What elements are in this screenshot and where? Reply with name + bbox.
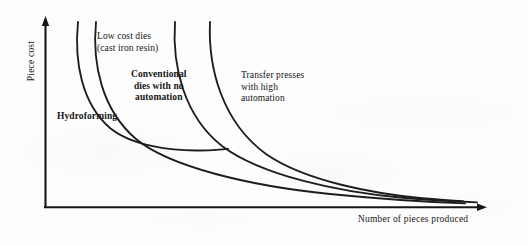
chart-plot-area — [0, 0, 528, 245]
x-axis — [44, 204, 487, 211]
x-axis-label: Number of pieces produced — [358, 214, 468, 224]
y-axis — [42, 16, 49, 208]
curve-transfer-presses — [210, 22, 463, 201]
annotation-transfer-presses: Transfer presses with high automation — [241, 70, 304, 105]
annotation-transfer-presses-line-2: with high — [241, 82, 304, 94]
annotation-low-cost-dies-line-1: Low cost dies — [97, 31, 158, 43]
y-axis-label: Piece cost — [26, 21, 36, 101]
annotation-low-cost-dies-line-2: (cast iron resin) — [97, 43, 158, 55]
annotation-low-cost-dies: Low cost dies (cast iron resin) — [97, 31, 158, 54]
annotation-conventional-dies-line-1: Conventional — [131, 69, 187, 81]
piece-cost-vs-volume-chart: Piece cost Number of pieces produced Hyd… — [0, 0, 528, 245]
annotation-conventional-dies-line-2: dies with no — [131, 81, 187, 93]
y-axis-arrowhead-icon — [42, 16, 49, 26]
annotation-hydroforming-line-1: Hydroforming — [57, 111, 117, 123]
annotation-transfer-presses-line-3: automation — [241, 93, 304, 105]
annotation-conventional-dies: Conventional dies with no automation — [131, 69, 187, 104]
annotation-transfer-presses-line-1: Transfer presses — [241, 70, 304, 82]
x-axis-arrowhead-icon — [477, 204, 487, 211]
annotation-conventional-dies-line-3: automation — [131, 92, 187, 104]
annotation-hydroforming: Hydroforming — [57, 111, 117, 123]
